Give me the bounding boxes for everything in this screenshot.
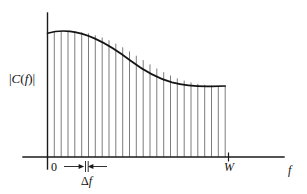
- delta-glyph: Δ: [81, 174, 89, 188]
- bandwidth-label: W: [224, 161, 234, 173]
- figure-container: |C(f)| 0 W f Δf: [0, 0, 307, 194]
- origin-label: 0: [51, 161, 57, 173]
- y-label-bar-close: |: [33, 71, 36, 86]
- sample-spacing-label: Δf: [81, 175, 92, 187]
- sample-lines-group: [48, 31, 226, 157]
- delta-f-dimension: [64, 161, 107, 172]
- y-axis-label: |C(f)|: [9, 72, 35, 85]
- spectrum-plot: [0, 0, 307, 194]
- delta-f-left-arrowhead: [79, 164, 85, 169]
- y-label-c: C: [12, 71, 21, 86]
- spacing-f-glyph: f: [89, 174, 92, 188]
- axes-group: [23, 13, 284, 169]
- x-axis-label: f: [288, 164, 291, 176]
